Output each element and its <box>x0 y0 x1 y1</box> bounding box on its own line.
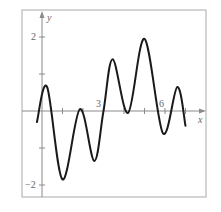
y-tick-label-2: 2 <box>31 31 36 42</box>
y-axis-arrow-icon <box>40 11 45 18</box>
x-axis-label: x <box>197 114 203 125</box>
y-axis-label: y <box>46 12 52 23</box>
x-tick-label-6: 6 <box>159 98 164 109</box>
x-tick-label-3: 3 <box>96 98 101 109</box>
data-curve <box>37 39 186 180</box>
x-axis-arrow-icon <box>199 109 206 114</box>
chart: y x 3 6 2 −2 <box>0 0 221 212</box>
y-tick-label-neg2: −2 <box>25 179 36 190</box>
